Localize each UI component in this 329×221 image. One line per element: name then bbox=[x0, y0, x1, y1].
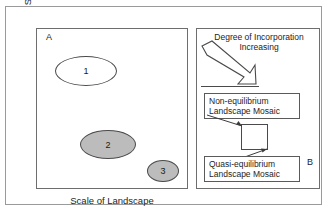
ellipse-3: 3 bbox=[147, 160, 179, 182]
non-equilibrium-line1: Non-equilibrium bbox=[209, 96, 296, 106]
figure-root: A 1 2 3 Scale of Disturbance Scale of La… bbox=[0, 0, 329, 221]
landscape-mosaic-node bbox=[241, 124, 268, 150]
ellipse-1: 1 bbox=[55, 56, 117, 86]
quasi-equilibrium-label-box: Quasi-equilibrium Landscape Mosaic bbox=[204, 156, 300, 182]
panel-a-label: A bbox=[46, 33, 52, 42]
y-axis-label: Scale of Disturbance bbox=[20, 0, 34, 42]
figure-outer-frame: A 1 2 3 Scale of Disturbance Scale of La… bbox=[5, 6, 322, 205]
panel-b-label: B bbox=[307, 158, 313, 167]
ellipse-2-label: 2 bbox=[105, 140, 110, 150]
ellipse-2: 2 bbox=[80, 130, 136, 159]
panel-a: A 1 2 3 bbox=[36, 28, 188, 189]
x-axis-label: Scale of Landscape bbox=[36, 195, 188, 206]
panel-b: Degree of Incorporation Increasing Non-e… bbox=[196, 28, 320, 189]
ellipse-3-label: 3 bbox=[160, 166, 165, 176]
arrow-down-right-icon bbox=[200, 40, 262, 89]
arrow-baseline-rule bbox=[201, 86, 259, 87]
quasi-equilibrium-line1: Quasi-equilibrium bbox=[209, 159, 296, 169]
non-equilibrium-line2: Landscape Mosaic bbox=[209, 106, 296, 116]
ellipse-1-label: 1 bbox=[83, 66, 88, 76]
quasi-equilibrium-line2: Landscape Mosaic bbox=[209, 169, 296, 179]
non-equilibrium-label-box: Non-equilibrium Landscape Mosaic bbox=[204, 93, 300, 119]
